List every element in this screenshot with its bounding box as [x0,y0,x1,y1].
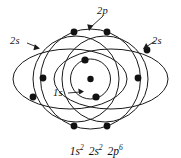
electron-dot [71,29,78,36]
electron-dot [81,56,88,63]
electron-dot [104,29,111,36]
config-term-1s: 1s2 [70,145,84,157]
config-shell-2s: 2s [89,145,99,157]
arrow-head-2s-left [33,44,40,50]
electron-dot [92,93,99,100]
config-term-2p: 2p6 [108,145,123,157]
electron-dot [104,123,111,130]
config-count-2s: 2 [99,143,103,152]
arrow-head-1s [78,88,84,94]
leader-line-2p [91,16,103,27]
label-2s-orbital-right: 2s [152,36,162,47]
electron-configuration-caption: 1s22s22p6 [0,134,181,158]
config-count-2p: 6 [119,143,123,152]
label-2s-orbital-left: 2s [10,36,20,47]
arrow-head-2s-right [143,43,149,49]
config-term-2s: 2s2 [89,145,103,157]
config-shell-2p: 2p [108,145,120,157]
electron-dot [40,75,47,82]
config-shell-1s: 1s [70,145,80,157]
electron-dot [30,94,37,101]
label-2p-orbital: 2p [97,6,108,17]
electron-dot [135,75,142,82]
nucleus-dot [87,76,93,82]
atomic-orbital-figure: 2p 2s 2s 1s 1s22s22p6 [0,0,181,158]
leader-line-1s [68,92,80,93]
config-count-1s: 2 [80,143,84,152]
electron-dot [71,123,78,130]
label-1s-orbital: 1s [53,88,63,99]
